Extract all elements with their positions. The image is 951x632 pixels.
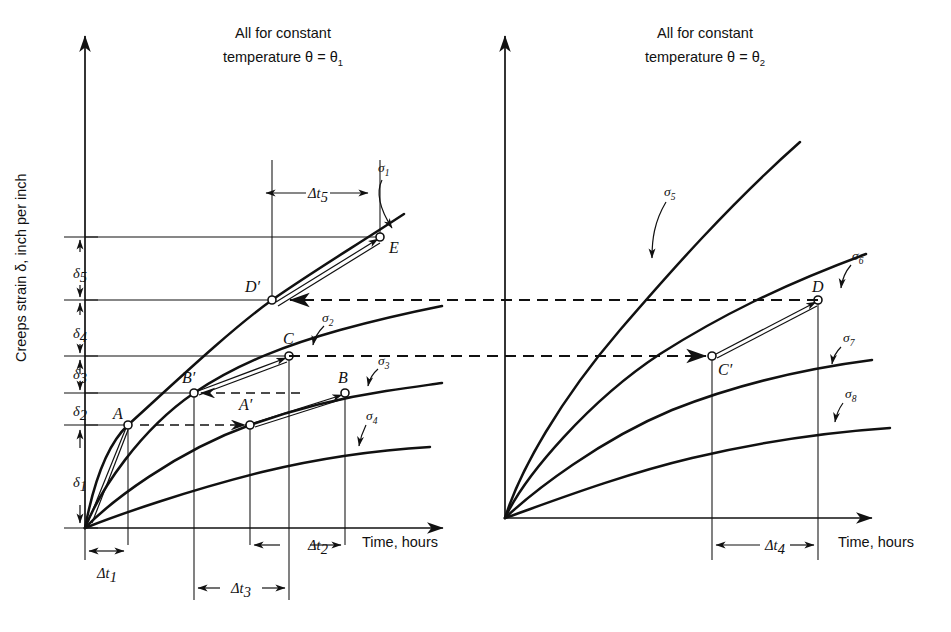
diagram-canvas: Creeps strain δ, inch per inch All for c…: [0, 0, 951, 632]
path-Bprime-to-C-2: [199, 362, 287, 395]
path-Aprime-to-B-2: [255, 399, 343, 427]
label-point-D: D: [811, 278, 824, 295]
marker-point-B: [341, 389, 349, 397]
leader-sigma-5: [652, 202, 666, 258]
y-axis-label: Creeps strain δ, inch per inch: [13, 173, 29, 362]
marker-point-A-prime: [246, 421, 254, 429]
label-delta-t2: Δt2: [307, 537, 328, 557]
label-sigma-7: σ7: [843, 330, 856, 348]
path-Bprime-to-C: [198, 358, 286, 391]
leader-sigma-3: [368, 369, 378, 386]
label-sigma-5: σ5: [664, 184, 676, 202]
label-point-C: C: [283, 330, 294, 347]
label-sigma-4: σ4: [366, 408, 378, 426]
right-title-line1: All for constant: [657, 25, 753, 41]
leader-sigma-7: [832, 347, 841, 364]
path-Dprime-to-E: [276, 239, 378, 302]
marker-point-A: [124, 421, 132, 429]
marker-point-E: [376, 233, 384, 241]
left-x-axis-label: Time, hours: [362, 534, 438, 550]
leader-sigma-4: [359, 425, 366, 446]
right-x-axis-label: Time, hours: [838, 534, 914, 550]
creep-diagram-root: Creeps strain δ, inch per inch All for c…: [0, 0, 951, 632]
label-sigma-6: σ6: [852, 248, 864, 266]
label-delta-t3: Δt3: [230, 580, 251, 600]
path-Cprime-to-D: [716, 302, 816, 354]
leader-sigma-1: [379, 180, 392, 228]
curve-sigma-5: [505, 142, 800, 518]
label-point-A-prime: A′: [238, 396, 253, 413]
label-delta-t4: Δt4: [764, 537, 785, 557]
marker-point-C-prime: [708, 352, 716, 360]
label-delta-t5: Δt5: [307, 185, 328, 205]
label-sigma-2: σ2: [322, 310, 334, 328]
right-title-line2: temperature θ = θ2: [645, 49, 765, 68]
label-point-D-prime: D′: [244, 278, 261, 295]
path-Aprime-to-B: [254, 395, 342, 423]
leader-sigma-6: [841, 265, 851, 288]
label-point-E: E: [388, 239, 399, 256]
label-point-A: A: [112, 405, 123, 422]
curve-sigma-4: [85, 447, 430, 528]
left-title-line1: All for constant: [235, 25, 331, 41]
curve-sigma-1: [85, 214, 404, 528]
path-Dprime-to-E-2: [278, 243, 380, 306]
label-sigma-8: σ8: [845, 386, 857, 404]
left-title-line2: temperature θ = θ1: [223, 49, 343, 68]
label-delta-t1: Δt1: [96, 565, 117, 585]
marker-point-D-prime: [268, 296, 276, 304]
label-point-C-prime: C′: [718, 361, 733, 378]
curve-sigma-3: [85, 383, 442, 528]
marker-point-B-prime: [190, 389, 198, 397]
curve-sigma-7: [505, 360, 872, 518]
label-point-B-prime: B′: [182, 369, 196, 386]
label-point-B: B: [338, 369, 348, 386]
leader-sigma-8: [835, 403, 843, 422]
